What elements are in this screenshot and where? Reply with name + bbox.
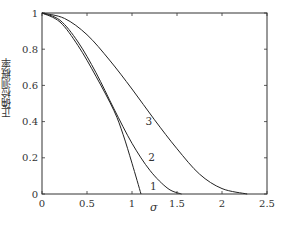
x-tick-label: 1 bbox=[129, 198, 135, 209]
curve-3 bbox=[42, 13, 247, 194]
y-tick-label: 0.8 bbox=[22, 44, 38, 55]
curve-label-1: 1 bbox=[150, 180, 157, 192]
curve-label-2: 2 bbox=[148, 151, 155, 163]
curve-1 bbox=[42, 13, 141, 194]
x-tick-label: 2.5 bbox=[259, 198, 275, 209]
x-tick-label: 0 bbox=[39, 198, 45, 209]
x-tick-label: 1.5 bbox=[169, 198, 185, 209]
chart: 00.511.522.500.20.40.60.81123 bbox=[0, 0, 284, 225]
x-axis-label: σ bbox=[150, 201, 158, 214]
y-tick-label: 1 bbox=[32, 8, 38, 19]
y-tick-label: 0 bbox=[32, 189, 38, 200]
y-tick-label: 0.6 bbox=[22, 80, 38, 91]
x-tick-label: 0.5 bbox=[79, 198, 95, 209]
plot-frame bbox=[42, 13, 267, 194]
y-tick-label: 0.4 bbox=[22, 116, 38, 127]
curve-2 bbox=[42, 13, 182, 194]
x-tick-label: 2 bbox=[219, 198, 225, 209]
curve-label-3: 3 bbox=[146, 115, 153, 127]
y-axis-label: 正确检测概率 bbox=[1, 58, 15, 118]
y-tick-label: 0.2 bbox=[22, 152, 38, 163]
